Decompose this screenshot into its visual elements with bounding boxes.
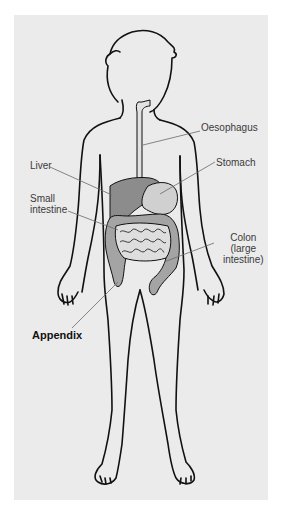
label-colon-line2: (large <box>223 243 264 254</box>
label-stomach: Stomach <box>216 157 255 168</box>
label-small-intestine-line1: Small <box>30 193 67 204</box>
label-small-intestine-line2: intestine <box>30 204 67 215</box>
label-colon: Colon (large intestine) <box>223 232 264 265</box>
label-colon-line3: intestine) <box>223 254 264 265</box>
label-colon-line1: Colon <box>223 232 264 243</box>
label-liver: Liver <box>30 160 52 171</box>
label-oesophagus: Oesophagus <box>201 122 258 133</box>
label-appendix: Appendix <box>32 330 82 341</box>
label-small-intestine: Small intestine <box>30 193 67 215</box>
